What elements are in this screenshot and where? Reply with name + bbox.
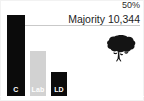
bar-label-conservative: C (7, 86, 25, 94)
bar-liberal-democrat: LD (51, 72, 67, 96)
threshold-percent-label: 50% (122, 0, 140, 11)
bar-label-liberal-democrat: LD (51, 86, 67, 94)
bar-labour: Lab (30, 51, 46, 96)
bar-label-labour: Lab (30, 86, 46, 94)
majority-annotation: Majority 10,344 (68, 13, 140, 26)
conservative-oak-tree-icon (98, 31, 140, 65)
chart-plot-area: 50% Majority 10,344 (0, 0, 144, 101)
chart-baseline (0, 96, 144, 97)
election-result-bar-chart: 50% Majority 10,344 (0, 0, 144, 101)
bar-conservative: C (7, 15, 25, 96)
